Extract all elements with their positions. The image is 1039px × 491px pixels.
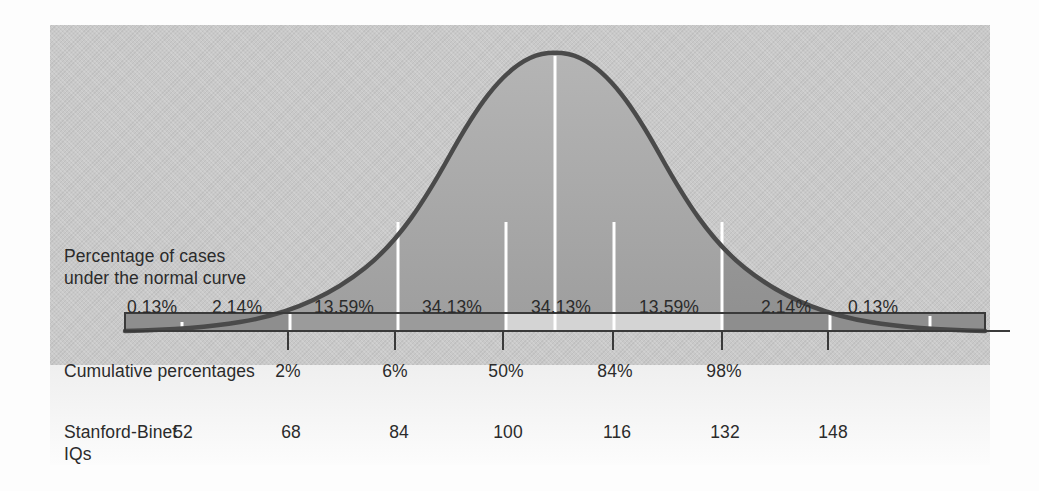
cumulative-row-label: Cumulative percentages: [64, 360, 255, 382]
caption-line-2: under the normal curve: [64, 267, 246, 289]
band-percent-3: 34.13%: [422, 296, 482, 318]
iq-row-label-line-2: IQs: [64, 443, 92, 465]
band-percent-0: 0.13%: [127, 296, 177, 318]
iq-value-132: 132: [710, 421, 740, 443]
band-minus3-minus2: [182, 40, 290, 335]
sd-divider-lines: [182, 56, 930, 331]
caption-line-1: Percentage of cases: [64, 245, 225, 267]
cumulative-50: 50%: [488, 360, 523, 382]
band-minus4-minus3: [125, 40, 182, 335]
band-percent-4: 34.13%: [531, 296, 591, 318]
band-percent-6: 2.14%: [761, 296, 811, 318]
iq-value-100: 100: [493, 421, 523, 443]
iq-value-116: 116: [603, 421, 631, 443]
iq-value-84: 84: [389, 421, 409, 443]
band-percent-5: 13.59%: [639, 296, 699, 318]
iq-value-148: 148: [818, 421, 848, 443]
iq-row-label-line-1: Stanford-Binet: [64, 421, 177, 443]
band-percent-2: 13.59%: [314, 296, 374, 318]
cumulative-84: 84%: [597, 360, 632, 382]
iq-value-68: 68: [281, 421, 301, 443]
band-0-plus1: [506, 40, 614, 335]
cumulative-2: 2%: [275, 360, 301, 382]
iq-value-52: 52: [173, 421, 193, 443]
band-percent-7: 0.13%: [848, 296, 898, 318]
band-percent-1: 2.14%: [212, 296, 262, 318]
normal-curve-figure: Percentage of cases under the normal cur…: [0, 0, 1039, 491]
cumulative-98: 98%: [706, 360, 741, 382]
band-plus1-plus2: [614, 40, 722, 335]
band-plus3-plus4: [830, 40, 985, 335]
band-minus1-0: [398, 40, 506, 335]
cumulative-6: 6%: [382, 360, 408, 382]
band-minus2-minus1: [290, 40, 398, 335]
axis-ticks: [288, 331, 828, 350]
